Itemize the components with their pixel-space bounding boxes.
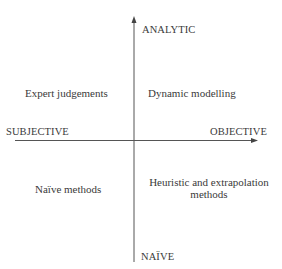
axis-label-naive: NAÏVE bbox=[141, 251, 174, 263]
axis-label-subjective: SUBJECTIVE bbox=[6, 126, 69, 138]
arrow-up-icon bbox=[132, 16, 137, 23]
quadrant-heuristic-line2: methods bbox=[144, 188, 274, 200]
quadrant-heuristic-extrapolation: Heuristic and extrapolation methods bbox=[144, 176, 274, 200]
axis-label-analytic: ANALYTIC bbox=[142, 24, 195, 36]
quadrant-dynamic-modelling: Dynamic modelling bbox=[148, 87, 236, 99]
quadrant-heuristic-line1: Heuristic and extrapolation bbox=[144, 176, 274, 188]
quadrant-expert-judgements: Expert judgements bbox=[25, 87, 108, 99]
axis-label-objective: OBJECTIVE bbox=[210, 126, 267, 138]
arrow-right-icon bbox=[251, 138, 258, 143]
quadrant-naive-methods: Naïve methods bbox=[35, 183, 101, 195]
